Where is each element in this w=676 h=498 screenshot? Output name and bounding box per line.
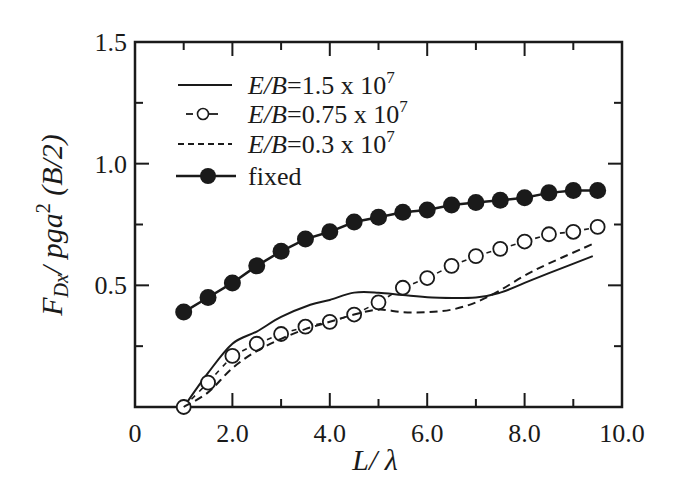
y-label-mid: / pga — [35, 213, 68, 276]
filled-circle-marker — [467, 194, 484, 211]
y-tick-label: 1.0 — [95, 150, 128, 179]
legend-label: E/B=1.5 x 107 — [247, 68, 395, 100]
filled-circle-marker — [540, 184, 557, 201]
filled-circle-marker — [273, 243, 290, 260]
open-circle-marker — [396, 281, 410, 295]
open-circle-marker — [542, 227, 556, 241]
legend-item: E/B=0.3 x 107 — [178, 127, 395, 159]
series-curve — [184, 244, 593, 407]
y-label-sup: 2 — [32, 203, 54, 213]
open-circle-marker — [591, 220, 605, 234]
y-label-main: F — [35, 297, 68, 317]
open-circle-marker — [420, 271, 434, 285]
x-tick-label: 6.0 — [411, 419, 444, 448]
filled-circle-marker — [565, 182, 582, 199]
series-2 — [184, 244, 593, 407]
filled-circle-marker — [224, 274, 241, 291]
legend: E/B=1.5 x 107E/B=0.75 x 107E/B=0.3 x 107… — [176, 68, 408, 191]
filled-circle-marker — [175, 304, 192, 321]
x-tick-label: 4.0 — [314, 419, 347, 448]
filled-circle-marker — [200, 289, 217, 306]
filled-circle-marker — [394, 204, 411, 221]
filled-circle-marker — [492, 192, 509, 209]
filled-circle-marker — [297, 231, 314, 248]
line-chart: 02.04.06.08.010.00.51.01.5 E/B=1.5 x 107… — [0, 0, 676, 498]
legend-label: E/B=0.3 x 107 — [247, 127, 395, 159]
x-axis-label: L/ λ — [351, 443, 398, 476]
open-circle-marker — [298, 320, 312, 334]
y-tick-label: 1.5 — [95, 28, 128, 57]
legend-label: E/B=0.75 x 107 — [247, 97, 408, 129]
open-circle-marker — [201, 376, 215, 390]
open-circle-marker — [566, 225, 580, 239]
series-layer — [175, 182, 606, 414]
y-tick-label: 0.5 — [95, 271, 128, 300]
y-axis-label: FDx/ pga2 (B/2) — [32, 134, 72, 317]
x-tick-label: 0 — [129, 419, 142, 448]
filled-circle-marker — [419, 201, 436, 218]
filled-circle-marker — [589, 182, 606, 199]
filled-circle-marker — [346, 214, 363, 231]
legend-open-circle-icon — [198, 109, 209, 120]
filled-circle-marker — [443, 197, 460, 214]
series-0 — [184, 256, 593, 407]
legend-item: E/B=1.5 x 107 — [178, 68, 395, 100]
open-circle-marker — [372, 295, 386, 309]
legend-item: fixed — [176, 162, 301, 191]
open-circle-marker — [469, 249, 483, 263]
filled-circle-marker — [321, 223, 338, 240]
filled-circle-marker — [248, 257, 265, 274]
open-circle-marker — [493, 242, 507, 256]
series-curve — [184, 256, 593, 407]
y-label-sub: Dx — [50, 274, 72, 298]
series-3 — [175, 182, 606, 321]
legend-filled-circle-icon — [200, 168, 216, 184]
x-tick-label: 8.0 — [508, 419, 541, 448]
y-label-tail: (B/2) — [35, 134, 69, 203]
filled-circle-marker — [370, 209, 387, 226]
legend-label: fixed — [248, 162, 301, 191]
x-tick-label: 10.0 — [599, 419, 645, 448]
x-tick-label: 2.0 — [216, 419, 249, 448]
legend-item: E/B=0.75 x 107 — [186, 97, 408, 129]
filled-circle-marker — [516, 189, 533, 206]
open-circle-marker — [445, 259, 459, 273]
open-circle-marker — [518, 235, 532, 249]
open-circle-marker — [225, 349, 239, 363]
series-1 — [177, 220, 605, 414]
